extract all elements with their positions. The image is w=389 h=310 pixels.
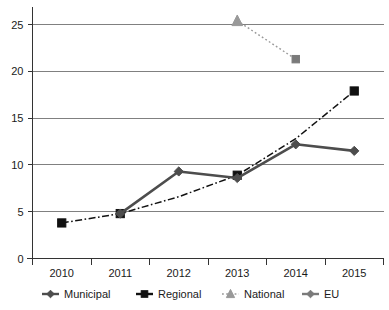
series-regional: [58, 87, 359, 227]
series-municipal: [116, 140, 359, 218]
legend-item-eu[interactable]: EU: [302, 288, 339, 300]
legend-item-regional[interactable]: Regional: [136, 288, 201, 300]
chart-container: 0510152025 201020112012201320142015 Muni…: [0, 0, 389, 310]
legend-label: EU: [324, 288, 339, 300]
data-point-regional-2010: [58, 219, 66, 227]
series-eu: [292, 55, 299, 62]
gridlines: [33, 25, 384, 212]
y-tick-label: 25: [11, 19, 23, 31]
legend-item-national[interactable]: National: [222, 288, 284, 300]
y-tick-label: 5: [17, 206, 23, 218]
data-point-national-2013: [232, 15, 243, 26]
series-line-regional: [62, 91, 355, 223]
line-chart: 0510152025 201020112012201320142015 Muni…: [0, 0, 389, 310]
chart-legend: MunicipalRegionalNationalEU: [42, 288, 339, 300]
legend-marker-diamond-icon: [307, 290, 315, 298]
x-tick-label: 2011: [108, 267, 132, 279]
legend-label: Municipal: [64, 288, 110, 300]
y-tick-label: 10: [11, 159, 23, 171]
y-axis-labels: 0510152025: [11, 19, 23, 265]
legend-item-municipal[interactable]: Municipal: [42, 288, 110, 300]
y-tick-label: 20: [11, 65, 23, 77]
x-tick-label: 2014: [284, 267, 308, 279]
x-tick-label: 2013: [225, 267, 249, 279]
legend-marker-square-icon: [141, 291, 148, 298]
x-axis-labels: 201020112012201320142015: [50, 267, 367, 279]
legend-label: National: [244, 288, 284, 300]
series-connector-national-to-eu-connector: [237, 21, 296, 59]
y-tick-label: 15: [11, 112, 23, 124]
data-series: [58, 15, 359, 227]
x-axis-ticks: [33, 259, 384, 265]
x-tick-label: 2012: [167, 267, 191, 279]
x-tick-label: 2015: [342, 267, 366, 279]
data-point-municipal-2015: [350, 146, 359, 155]
x-tick-label: 2010: [50, 267, 74, 279]
series-national: [232, 15, 243, 26]
y-tick-label: 0: [17, 253, 23, 265]
legend-marker-diamond-icon: [47, 290, 55, 298]
y-axis-ticks: [28, 25, 33, 259]
legend-label: Regional: [158, 288, 201, 300]
data-point-regional-2015: [350, 87, 358, 95]
data-point-eu-2014: [292, 55, 299, 62]
